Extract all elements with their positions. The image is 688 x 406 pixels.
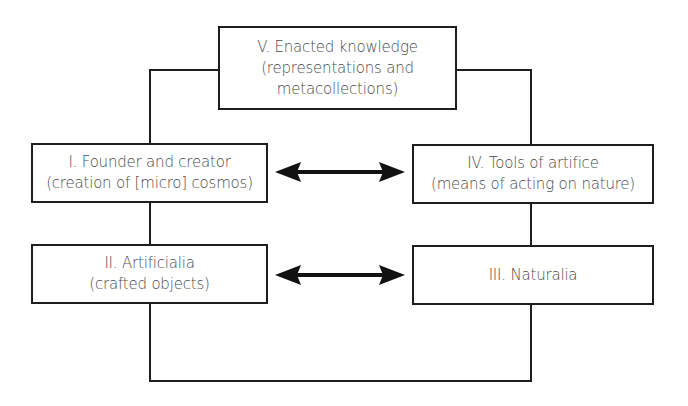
node-i-founder-and-creator: I. Founder and creator (creation of [mic… [31,143,268,203]
diagram-canvas: V. Enacted knowledge (representations an… [0,0,688,406]
connector-ii-to-iii-bottom [150,303,531,381]
node-v-subtitle-2: metacollections) [277,79,398,100]
node-i-subtitle: (creation of [micro] cosmos) [46,173,253,194]
double-arrow-icon-ii-iii [275,265,405,285]
node-iii-naturalia: III. Naturalia [412,245,654,305]
node-iv-tools-of-artifice: IV. Tools of artifice (means of acting o… [412,144,654,204]
node-iii-title: III. Naturalia [489,265,578,286]
node-v-title: V. Enacted knowledge [257,37,417,58]
node-iv-title: IV. Tools of artifice [467,153,598,174]
node-i-title: I. Founder and creator [68,152,230,173]
node-ii-subtitle: (crafted objects) [89,274,209,295]
connector-v-to-i [150,70,219,145]
double-arrow-icon-i-iv [275,162,405,182]
node-v-enacted-knowledge: V. Enacted knowledge (representations an… [218,26,457,110]
node-ii-title: II. Artificialia [104,253,194,274]
node-iv-subtitle: (means of acting on nature) [431,174,635,195]
node-ii-artificialia: II. Artificialia (crafted objects) [31,244,268,304]
connector-v-to-iv [456,70,531,146]
node-v-subtitle-1: (representations and [261,58,414,79]
